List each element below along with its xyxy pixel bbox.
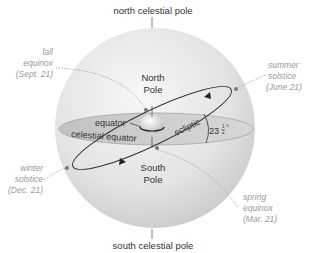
svg-text:solstice: solstice [268, 71, 297, 81]
south-celestial-pole-label: south celestial pole [113, 240, 194, 251]
celestial-sphere-diagram: north celestial pole south celestial pol… [0, 0, 312, 253]
south-pole-label-line1: South [141, 162, 166, 173]
svg-text:(Dec. 21): (Dec. 21) [8, 185, 43, 195]
fall-equinox-callout: fall equinox (Sept. 21) [16, 47, 54, 79]
winter-solstice-callout-line [44, 168, 66, 180]
svg-text:spring: spring [243, 192, 266, 202]
svg-text:23: 23 [209, 126, 219, 136]
svg-text:equinox: equinox [23, 58, 54, 68]
svg-text:°: ° [226, 124, 229, 131]
svg-text:winter: winter [20, 163, 44, 173]
south-pole-label-line2: Pole [143, 174, 162, 185]
svg-text:fall: fall [42, 47, 54, 57]
svg-text:(Sept. 21): (Sept. 21) [16, 69, 53, 79]
summer-solstice-callout: summer solstice (June 21) [266, 60, 302, 92]
north-celestial-pole-label: north celestial pole [113, 5, 192, 16]
summer-solstice-marker [234, 87, 238, 91]
winter-solstice-callout: winter solstice (Dec. 21) [8, 163, 44, 195]
spring-equinox-callout: spring equinox (Mar. 21) [243, 192, 277, 224]
spring-equinox-marker [155, 146, 159, 150]
svg-text:summer: summer [268, 60, 300, 70]
svg-text:solstice: solstice [15, 174, 44, 184]
svg-text:(Mar. 21): (Mar. 21) [243, 214, 277, 224]
svg-text:(June 21): (June 21) [266, 82, 302, 92]
fall-equinox-marker [144, 108, 148, 112]
equator-label: equator [95, 118, 126, 128]
north-pole-label-line1: North [141, 72, 164, 83]
winter-solstice-marker [65, 166, 69, 170]
svg-text:equinox: equinox [243, 203, 274, 213]
north-pole-label-line2: Pole [143, 84, 162, 95]
